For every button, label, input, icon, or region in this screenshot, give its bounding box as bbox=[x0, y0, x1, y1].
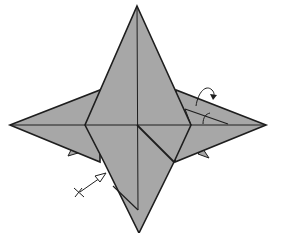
valley-arrow-shaft bbox=[80, 178, 100, 192]
origami-diagram bbox=[0, 0, 287, 233]
fold-behind-arrowhead-icon bbox=[210, 94, 217, 100]
